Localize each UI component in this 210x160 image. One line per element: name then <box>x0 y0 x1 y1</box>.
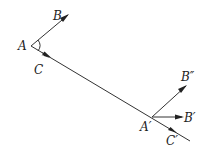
angle-arc-A <box>38 40 40 51</box>
label-A-prime: A′ <box>139 120 152 134</box>
label-C-prime: C′ <box>166 134 178 148</box>
label-A: A <box>17 39 27 53</box>
main-line-AC <box>31 46 190 141</box>
label-B-double-prime: B″ <box>180 70 195 84</box>
label-B: B <box>52 9 62 23</box>
label-C: C <box>34 63 43 77</box>
label-B-prime: B′ <box>183 111 196 125</box>
vector-diagram: A B C A′ B′ B″ C′ <box>0 0 210 160</box>
arrow-B-prime-icon <box>175 115 184 120</box>
arrow-C-prime-icon <box>168 127 177 133</box>
